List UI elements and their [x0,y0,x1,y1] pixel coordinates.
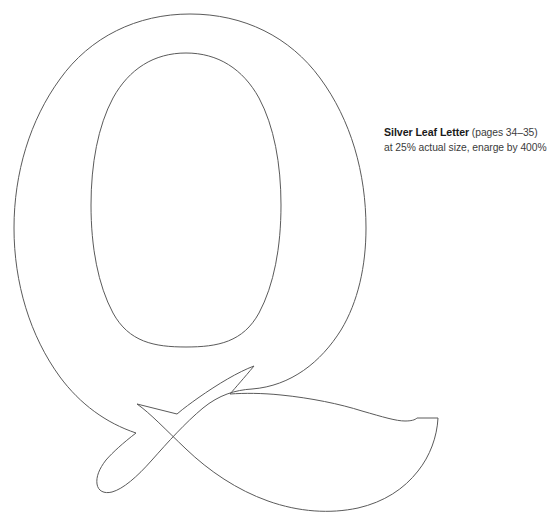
caption-block: Silver Leaf Letter (pages 34–35) at 25% … [384,125,552,155]
page-canvas: Silver Leaf Letter (pages 34–35) at 25% … [0,0,554,520]
q-outer-bowl-path [14,14,366,493]
letter-q-outline-template [0,0,460,520]
caption-subtitle: at 25% actual size, enarge by 400% [384,141,552,156]
q-inner-counter-path [91,53,281,347]
caption-title: Silver Leaf Letter [384,126,469,138]
caption-title-line: Silver Leaf Letter (pages 34–35) [384,125,552,141]
caption-pages: (pages 34–35) [469,127,538,138]
q-swash-tail-path [137,366,438,511]
